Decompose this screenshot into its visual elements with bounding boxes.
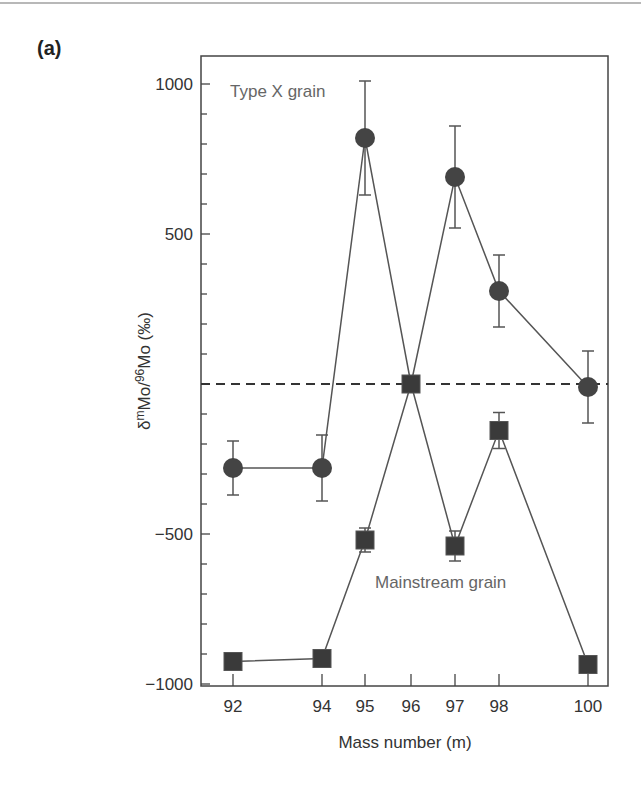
circle-marker	[578, 377, 598, 397]
square-marker	[579, 656, 597, 674]
circle-marker	[355, 128, 375, 148]
x-tick-label: 92	[224, 697, 243, 716]
y-tick-label: −1000	[145, 675, 193, 694]
x-tick-label: 94	[313, 697, 332, 716]
x-tick-label: 95	[356, 697, 375, 716]
mainstream-grain-line	[233, 384, 588, 665]
type-x-grain-line	[233, 138, 588, 468]
annotation-mainstream-grain: Mainstream grain	[375, 573, 506, 592]
x-axis-title: Mass number (m)	[338, 733, 471, 752]
square-marker	[356, 531, 374, 549]
circle-marker	[445, 167, 465, 187]
circle-marker	[223, 458, 243, 478]
circle-marker	[312, 458, 332, 478]
square-marker	[446, 537, 464, 555]
y-tick-label: −500	[155, 525, 193, 544]
x-tick-label: 96	[402, 697, 421, 716]
y-axis-title: δmMo/96Mo (‰)	[133, 312, 154, 430]
square-marker	[224, 653, 242, 671]
x-tick-label: 97	[446, 697, 465, 716]
square-marker	[490, 422, 508, 440]
circle-marker	[489, 281, 509, 301]
y-tick-label: 500	[165, 225, 193, 244]
annotation-type-x-grain: Type X grain	[230, 82, 325, 101]
chart: 1000500−500−1000929495969798100Type X gr…	[0, 0, 641, 787]
y-tick-label: 1000	[155, 75, 193, 94]
square-marker	[313, 650, 331, 668]
x-tick-label: 100	[574, 697, 602, 716]
square-marker	[402, 375, 420, 393]
x-tick-label: 98	[490, 697, 509, 716]
